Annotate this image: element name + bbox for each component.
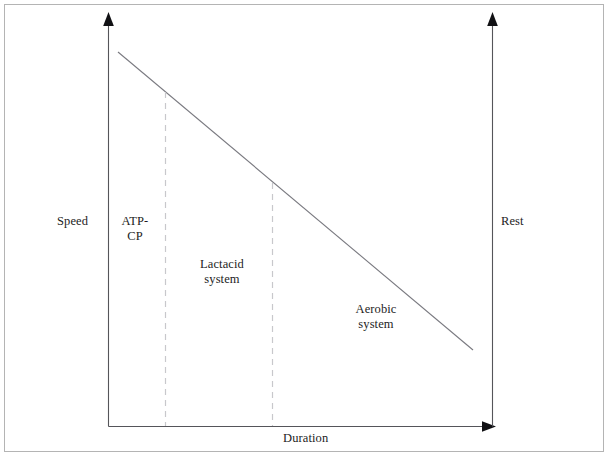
y-axis-right-label: Rest	[501, 214, 524, 229]
speed-decline-line	[118, 52, 473, 350]
x-axis-label: Duration	[283, 431, 328, 446]
zone-label-atp-cp: ATP- CP	[115, 214, 155, 244]
zone-label-aerobic: Aerobic system	[343, 302, 409, 332]
zone-label-lactacid: Lactacid system	[186, 257, 258, 287]
diagram-graphic	[0, 0, 611, 462]
y-axis-right	[487, 12, 498, 427]
y-axis-left	[103, 12, 114, 427]
figure-canvas: Speed Rest Duration ATP- CP Lactacid sys…	[0, 0, 611, 462]
y-axis-left-label: Speed	[57, 214, 88, 229]
